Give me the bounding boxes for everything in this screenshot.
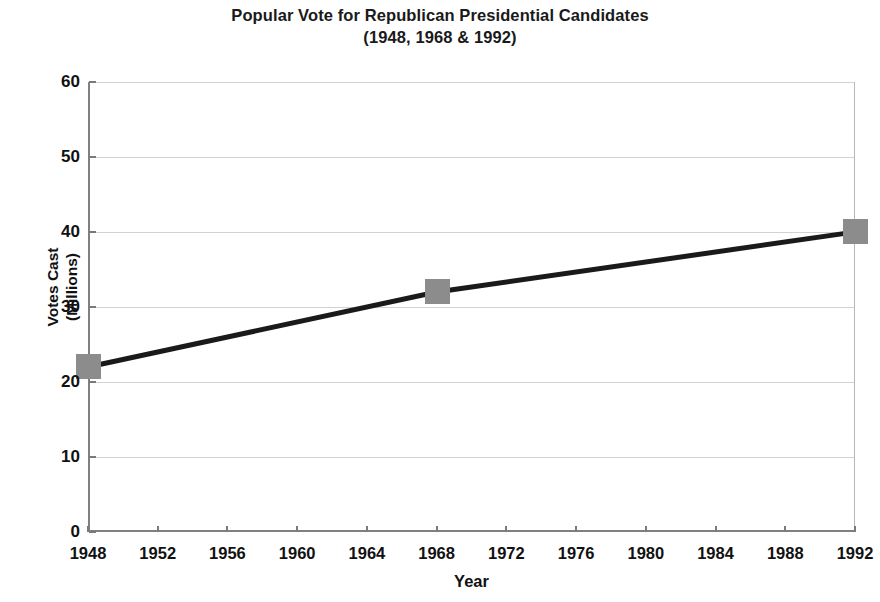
x-axis-tick-mark [645,526,647,532]
gridline [90,82,854,83]
y-axis-tick-mark [89,81,96,83]
x-axis-tick-mark [87,526,89,532]
x-axis-tick-mark [157,526,159,532]
x-axis-title: Year [88,572,855,591]
x-axis-tick-mark [575,526,577,532]
x-axis-tick-mark [505,526,507,532]
x-axis-tick-mark [715,526,717,532]
y-axis-tick-label: 30 [10,298,80,315]
x-axis-tick-label: 1956 [187,544,267,562]
y-axis-tick-mark [89,231,96,233]
x-axis-tick-mark [854,526,856,532]
data-point-marker [425,279,450,304]
gridline [90,457,854,458]
y-axis-tick-mark [89,156,96,158]
y-axis-tick-label: 20 [10,373,80,390]
data-point-marker [843,219,868,244]
y-axis-tick-label: 10 [10,448,80,465]
y-axis-tick-mark [89,531,96,533]
plot-area [88,82,855,532]
x-axis-tick-label: 1980 [606,544,686,562]
y-axis-tick-mark [89,306,96,308]
gridline [90,232,854,233]
chart-title: Popular Vote for Republican Presidential… [0,4,880,48]
x-axis-tick-label: 1952 [118,544,198,562]
y-axis-tick-label: 0 [10,523,80,540]
y-axis-tick-label: 50 [10,148,80,165]
x-axis-tick-label: 1964 [327,544,407,562]
x-axis-tick-label: 1972 [466,544,546,562]
x-axis-tick-mark [784,526,786,532]
x-axis-tick-mark [226,526,228,532]
chart-title-line2: (1948, 1968 & 1992) [0,26,880,48]
gridline [90,382,854,383]
y-axis-tick-mark [89,381,96,383]
x-axis-tick-label: 1968 [397,544,477,562]
x-axis-tick-mark [436,526,438,532]
y-axis-tick-label: 60 [10,73,80,90]
x-axis-tick-label: 1988 [745,544,825,562]
x-axis-tick-label: 1984 [676,544,756,562]
gridline [90,157,854,158]
y-axis-tick-label: 40 [10,223,80,240]
x-axis-tick-mark [296,526,298,532]
x-axis-tick-mark [366,526,368,532]
x-axis-tick-label: 1960 [257,544,337,562]
chart-figure: Popular Vote for Republican Presidential… [0,0,880,602]
gridline [90,307,854,308]
x-axis-tick-label: 1948 [48,544,128,562]
chart-title-line1: Popular Vote for Republican Presidential… [231,6,648,24]
y-axis-tick-mark [89,456,96,458]
x-axis-tick-label: 1976 [536,544,616,562]
x-axis-tick-label: 1992 [815,544,880,562]
